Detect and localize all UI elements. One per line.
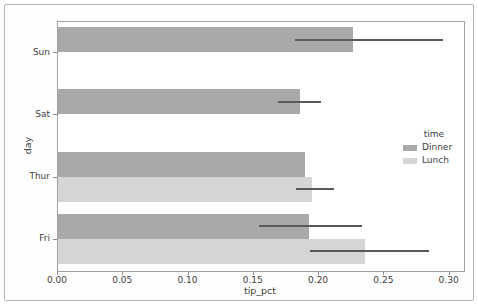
x-tick-label-0.10: 0.10 xyxy=(171,276,205,285)
x-tick-label-0.20: 0.20 xyxy=(301,276,335,285)
x-tick-label-0.00: 0.00 xyxy=(40,276,74,285)
y-tick-mark-thur xyxy=(53,177,57,178)
bar-thur-dinner xyxy=(58,152,305,177)
legend-label-lunch: Lunch xyxy=(422,155,449,166)
y-tick-mark-sat xyxy=(53,114,57,115)
errorbar-sat-dinner xyxy=(278,101,321,103)
legend-entry-dinner: Dinner xyxy=(403,142,452,153)
x-tick-label-0.05: 0.05 xyxy=(105,276,139,285)
errorbar-thur-lunch xyxy=(296,188,334,190)
y-tick-mark-sun xyxy=(53,52,57,53)
legend-label-dinner: Dinner xyxy=(422,142,452,153)
legend-swatch-lunch xyxy=(403,158,417,164)
x-tick-label-0.25: 0.25 xyxy=(366,276,400,285)
bar-thur-lunch xyxy=(58,177,312,202)
errorbar-fri-dinner xyxy=(259,225,362,227)
y-tick-mark-fri xyxy=(53,239,57,240)
figure-canvas: SunSatThurFri0.000.050.100.150.200.250.3… xyxy=(4,4,474,301)
x-axis-label: tip_pct xyxy=(57,285,463,296)
bar-sat-dinner xyxy=(58,89,300,114)
legend-entry-lunch: Lunch xyxy=(403,155,449,166)
legend-title: time xyxy=(403,129,465,139)
y-axis-label: day xyxy=(22,21,33,270)
x-tick-label-0.30: 0.30 xyxy=(432,276,466,285)
legend-swatch-dinner xyxy=(403,145,417,151)
errorbar-fri-lunch xyxy=(310,250,429,252)
errorbar-sun-dinner xyxy=(295,39,444,41)
x-tick-label-0.15: 0.15 xyxy=(236,276,270,285)
legend: time Dinner Lunch xyxy=(403,129,465,166)
